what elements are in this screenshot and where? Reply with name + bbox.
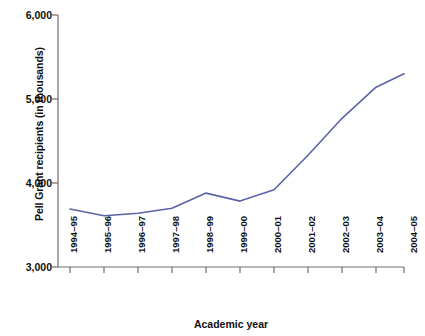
line-chart-figure: Pell Grant recipients (in thousands) 6,0… xyxy=(0,0,425,336)
y-tick-marks xyxy=(52,15,58,267)
plot-area xyxy=(0,0,425,336)
data-line-pell-grant-recipients xyxy=(70,74,404,216)
x-tick-marks xyxy=(70,267,404,273)
